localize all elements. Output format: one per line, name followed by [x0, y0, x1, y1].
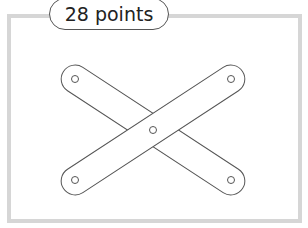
hole-bottom-right [228, 177, 235, 184]
hole-bottom-left [72, 177, 79, 184]
hole-center-pivot [150, 127, 157, 134]
hole-top-left [72, 76, 79, 83]
hole-top-right [228, 76, 235, 83]
points-label-text: 28 points [65, 3, 154, 25]
points-label: 28 points [49, 0, 169, 30]
crossed-bars-figure [0, 0, 308, 228]
